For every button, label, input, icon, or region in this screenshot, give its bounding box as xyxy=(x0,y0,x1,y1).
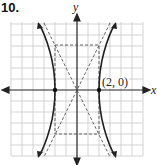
axes xyxy=(2,14,150,165)
y-axis-label: y xyxy=(72,0,79,14)
point-label: (2, 0) xyxy=(102,75,128,89)
vertex-right xyxy=(97,88,101,92)
hyperbola-graph: y x (2, 0) xyxy=(0,0,157,165)
x-axis-label: x xyxy=(150,83,157,97)
vertex-left xyxy=(53,88,57,92)
